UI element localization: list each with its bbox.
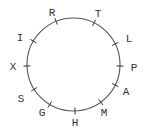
letter-label-r: R <box>49 7 56 19</box>
letter-label-x: X <box>10 61 17 73</box>
tick-mark-i <box>30 39 36 43</box>
letter-label-l: L <box>126 33 133 45</box>
tick-mark-m <box>99 99 103 105</box>
letter-label-g: G <box>39 107 46 119</box>
letter-label-s: S <box>18 93 25 105</box>
tick-mark-s <box>31 87 37 91</box>
letter-ring-diagram: RTLPAMHGSXI <box>0 0 145 135</box>
letter-label-h: H <box>72 117 79 129</box>
letter-label-p: P <box>131 62 138 74</box>
ring-circle <box>27 18 120 111</box>
tick-mark-g <box>48 101 52 107</box>
letter-label-i: I <box>17 32 24 44</box>
letter-label-m: M <box>101 107 108 119</box>
letter-label-a: A <box>123 86 130 98</box>
tick-marks <box>24 18 124 114</box>
letter-label-t: T <box>95 8 102 20</box>
